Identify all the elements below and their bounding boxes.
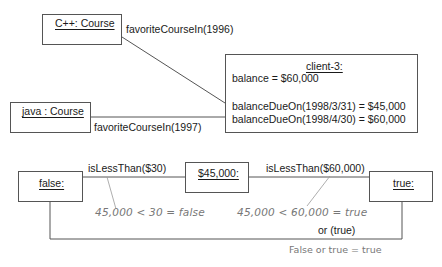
true-name: true: [393, 177, 414, 189]
note-or: False or true = true [289, 244, 382, 255]
cpp-link-label: favoriteCourseIn(1996) [126, 23, 233, 35]
client-object: client-3: balance = $60,000 balanceDueOn… [225, 54, 418, 133]
or-link-label: or (true) [318, 224, 355, 236]
java-course-name: java : Course [22, 105, 84, 117]
cpp-course-name: C++: Course [55, 17, 115, 29]
client-balance: balance = $60,000 [232, 72, 319, 84]
less-than-60000-label: isLessThan($60,000) [266, 162, 365, 174]
true-object: true: [369, 171, 433, 202]
amount-name: $45,000: [198, 167, 239, 179]
amount-object: $45,000: [185, 162, 249, 193]
false-name: false: [39, 177, 64, 189]
client-query-1: balanceDueOn(1998/3/31) = $45,000 [232, 100, 406, 112]
java-link-label: favoriteCourseIn(1997) [94, 121, 201, 133]
note-true: 45,000 < 60,000 = true [237, 206, 367, 218]
false-object: false: [18, 171, 83, 202]
client-name: client-3: [306, 60, 343, 72]
note-false: 45,000 < 30 = false [95, 206, 205, 218]
client-query-2: balanceDueOn(1998/4/30) = $60,000 [232, 113, 406, 125]
cpp-course-object: C++: Course [42, 14, 122, 45]
java-course-object: java : Course [10, 102, 91, 133]
less-than-30-label: isLessThan($30) [88, 162, 166, 174]
